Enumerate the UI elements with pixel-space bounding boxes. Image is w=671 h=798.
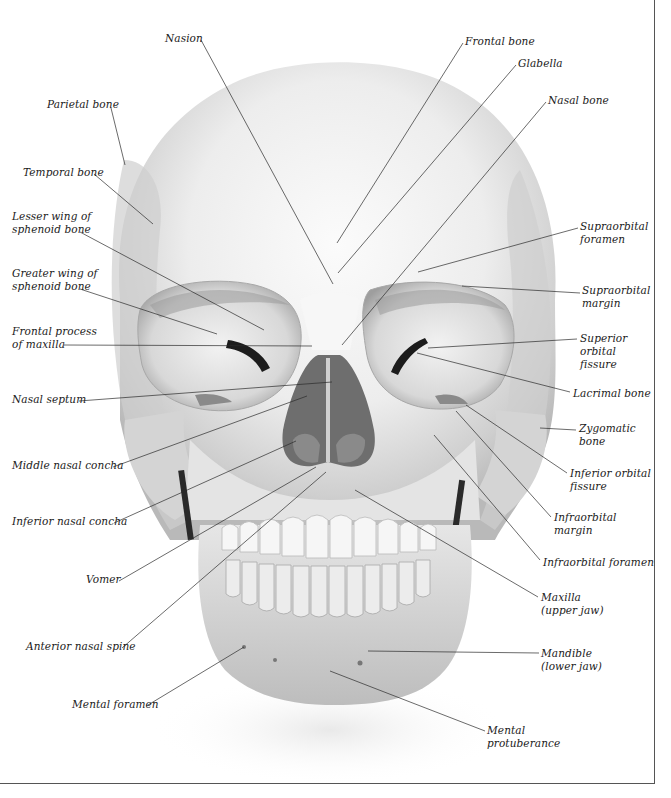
label-supraorbital-margin: Supraorbital margin bbox=[582, 284, 650, 310]
frame-border-bottom bbox=[0, 783, 655, 784]
label-anterior-nasal-spine: Anterior nasal spine bbox=[26, 640, 136, 653]
label-mental-foramen: Mental foramen bbox=[72, 698, 159, 711]
label-temporal-bone: Temporal bone bbox=[23, 166, 104, 179]
label-inferior-orbital-fissure: Inferior orbital fissure bbox=[570, 467, 651, 493]
label-parietal-bone: Parietal bone bbox=[47, 98, 119, 111]
label-mental-protuberance: Mental protuberance bbox=[487, 724, 560, 750]
skull-illustration bbox=[0, 0, 671, 798]
label-nasal-bone: Nasal bone bbox=[548, 94, 609, 107]
label-vomer: Vomer bbox=[86, 573, 121, 586]
label-mandible: Mandible (lower jaw) bbox=[541, 647, 602, 673]
label-supraorbital-foramen: Supraorbital foramen bbox=[580, 220, 648, 246]
label-middle-nasal-concha: Middle nasal concha bbox=[12, 459, 124, 472]
label-lesser-wing: Lesser wing of sphenoid bone bbox=[12, 210, 91, 236]
label-frontal-process: Frontal process of maxilla bbox=[12, 325, 97, 351]
label-infraorbital-margin: Infraorbital margin bbox=[554, 511, 617, 537]
frame-border-right bbox=[654, 0, 655, 784]
leader-line-parietal-bone bbox=[111, 108, 125, 165]
label-glabella: Glabella bbox=[518, 57, 563, 70]
label-zygomatic-bone: Zygomatic bone bbox=[579, 422, 636, 448]
label-inferior-nasal-concha: Inferior nasal concha bbox=[12, 515, 127, 528]
label-lacrimal-bone: Lacrimal bone bbox=[573, 387, 651, 400]
label-frontal-bone: Frontal bone bbox=[465, 35, 535, 48]
label-infraorbital-foramen: Infraorbital foramen bbox=[543, 556, 654, 569]
label-greater-wing: Greater wing of sphenoid bone bbox=[12, 267, 98, 293]
skull-anatomy-diagram: NasionFrontal boneGlabellaNasal bonePari… bbox=[0, 0, 671, 798]
label-maxilla: Maxilla (upper jaw) bbox=[541, 591, 604, 617]
label-superior-orbital-fissure: Superior orbital fissure bbox=[580, 332, 627, 371]
label-nasal-septum: Nasal septum bbox=[12, 393, 86, 406]
label-nasion: Nasion bbox=[165, 32, 203, 45]
